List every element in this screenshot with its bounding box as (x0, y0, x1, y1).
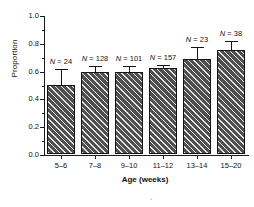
y-tick-label: 0.6 (29, 68, 39, 76)
error-bar-7–8 (95, 66, 96, 73)
y-tick-0.0 (40, 155, 44, 156)
x-tick (197, 156, 198, 159)
plot-area: 0.00.20.40.60.81.0 N = 24N = 128N = 101N… (44, 16, 248, 155)
error-bar-cap (89, 66, 102, 67)
bar-15–20 (217, 50, 246, 154)
y-tick-0.2 (40, 127, 44, 128)
x-tick (95, 156, 96, 159)
x-tick-label-5–6: 5–6 (55, 162, 68, 170)
y-axis-spine (44, 16, 45, 156)
sample-size-label-13–14: N = 23 (186, 36, 208, 44)
page-artifact-mark: ▪ (150, 196, 152, 202)
bar-7–8 (81, 72, 110, 154)
bar-11–12 (149, 68, 178, 154)
sample-size-label-11–12: N = 157 (150, 54, 176, 62)
x-tick-label-15–20: 15–20 (221, 162, 242, 170)
x-tick-label-7–8: 7–8 (89, 162, 102, 170)
y-tick-label: 0.4 (29, 96, 39, 104)
y-minor-tick (42, 141, 44, 142)
x-tick-label-13–14: 13–14 (187, 162, 208, 170)
x-tick-label-9–10: 9–10 (121, 162, 138, 170)
x-tick (129, 156, 130, 159)
bar-9–10 (115, 72, 144, 154)
bar-13–14 (183, 59, 212, 154)
x-tick-label-11–12: 11–12 (153, 162, 173, 170)
x-axis-spine (44, 155, 249, 156)
sample-size-label-5–6: N = 24 (50, 58, 72, 66)
y-tick-label: 0.8 (29, 40, 39, 48)
y-tick-label: 1.0 (29, 12, 39, 20)
bar-chart-figure: Proportion 0.00.20.40.60.81.0 N = 24N = … (0, 0, 254, 207)
error-bar-cap (55, 69, 68, 70)
error-bar-cap (123, 66, 136, 67)
y-minor-tick (42, 58, 44, 59)
x-axis-label: Age (weeks) (40, 175, 250, 184)
y-tick-0.8 (40, 44, 44, 45)
sample-size-label-7–8: N = 128 (82, 55, 108, 63)
y-axis-label: Proportion (10, 14, 19, 104)
y-minor-tick (42, 30, 44, 31)
sample-size-label-9–10: N = 101 (116, 55, 142, 63)
error-bar-9–10 (129, 66, 130, 73)
error-bar-cap (157, 65, 170, 66)
error-bar-13–14 (197, 47, 198, 61)
bar-5–6 (47, 85, 76, 155)
y-tick-label: 0.0 (29, 151, 39, 159)
error-bar-cap (191, 47, 204, 48)
x-tick (163, 156, 164, 159)
y-tick-0.6 (40, 72, 44, 73)
error-bar-cap (225, 41, 238, 42)
error-bar-5–6 (61, 69, 62, 86)
y-tick-label: 0.2 (29, 123, 39, 131)
error-bar-15–20 (231, 41, 232, 51)
x-tick (61, 156, 62, 159)
y-tick-1.0 (40, 16, 44, 17)
sample-size-label-15–20: N = 38 (220, 30, 242, 38)
y-tick-0.4 (40, 99, 44, 100)
y-minor-tick (42, 86, 44, 87)
y-minor-tick (42, 113, 44, 114)
x-tick (231, 156, 232, 159)
